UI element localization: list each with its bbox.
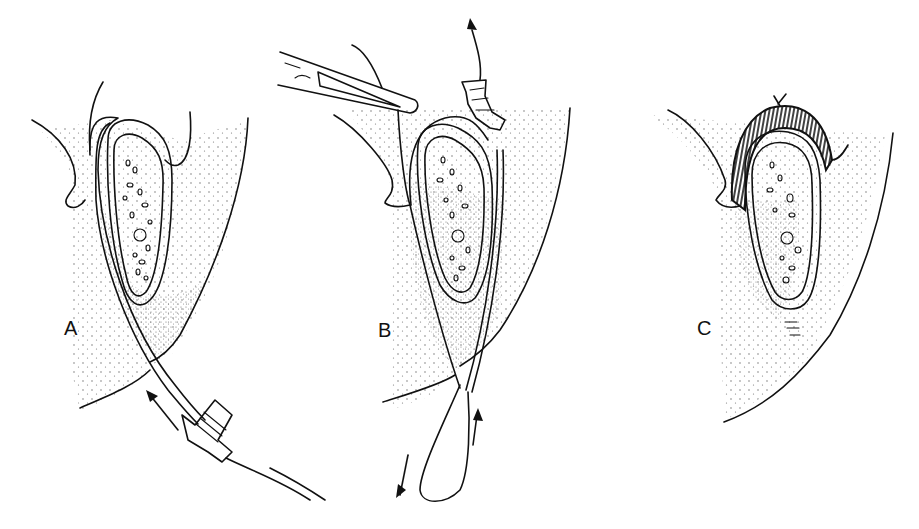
wire-loop: [420, 385, 469, 501]
panel-label-a: A: [64, 317, 78, 339]
knot-icon: [774, 94, 786, 106]
figure-canvas: A: [0, 0, 919, 529]
loop-arrows: [396, 408, 483, 498]
forceps-icon: [278, 52, 418, 113]
panel-a-edge-contour: [270, 468, 325, 500]
soft-tissue-stipple: [40, 120, 250, 410]
panel-label-b: B: [378, 319, 391, 341]
panel-b: B: [270, 18, 570, 501]
panel-label-c: C: [697, 317, 711, 339]
panel-a: A: [32, 82, 310, 500]
tissue-flap-left: [352, 45, 382, 88]
panel-c: C: [650, 94, 893, 422]
